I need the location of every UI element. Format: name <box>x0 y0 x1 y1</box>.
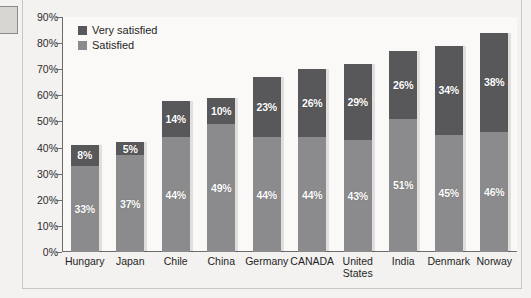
y-axis-tick-label: 60% <box>37 89 58 101</box>
legend-swatch-icon <box>78 41 87 50</box>
bar-group: 14%44% <box>162 101 190 252</box>
stacked-bar-chart: 0%10%20%30%40%50%60%70%80%90% 8%33%5%37%… <box>0 0 531 298</box>
bar-segment-value-label: 44% <box>257 189 277 201</box>
chart-legend: Very satisfiedSatisfied <box>78 24 157 51</box>
y-axis-tick-label: 70% <box>37 63 58 75</box>
bar-segment-value-label: 10% <box>211 105 231 117</box>
y-axis-tick-mark <box>56 95 62 96</box>
x-axis-tick-label: Denmark <box>426 255 472 267</box>
y-axis-tick-mark <box>56 69 62 70</box>
y-axis-tick-label: 90% <box>37 11 58 23</box>
y-axis-tick-mark <box>56 226 62 227</box>
bar-group: 23%44% <box>253 77 281 252</box>
bar-segment-satisfied: 44% <box>162 137 190 252</box>
y-axis-tick-label: 20% <box>37 194 58 206</box>
scanned-page: 0%10%20%30%40%50%60%70%80%90% 8%33%5%37%… <box>0 0 531 298</box>
bar-segment-very-satisfied: 14% <box>162 101 190 138</box>
bar-segment-very-satisfied: 23% <box>253 77 281 137</box>
bar-segment-satisfied: 37% <box>116 155 144 252</box>
y-axis-tick-mark <box>56 148 62 149</box>
bar-segment-satisfied: 49% <box>207 124 235 252</box>
legend-item-label: Very satisfied <box>92 24 157 36</box>
bar-group: 10%49% <box>207 98 235 252</box>
x-axis-tick-label: China <box>199 255 245 267</box>
bar-segment-value-label: 43% <box>348 190 368 202</box>
x-axis-tick-label: India <box>381 255 427 267</box>
bar-segment-value-label: 44% <box>166 189 186 201</box>
y-axis-tick-mark <box>56 200 62 201</box>
bar-segment-value-label: 14% <box>166 113 186 125</box>
y-axis-tick-mark <box>56 17 62 18</box>
bar-shadow <box>508 33 511 252</box>
x-axis-tick-label: Germany <box>244 255 290 267</box>
y-axis-tick-mark <box>56 43 62 44</box>
bar-segment-value-label: 51% <box>393 179 413 191</box>
y-axis-tick-mark <box>56 252 62 253</box>
bar-segment-value-label: 23% <box>257 101 277 113</box>
bar-segment-very-satisfied: 29% <box>344 64 372 140</box>
x-axis-tick-label: CANADA <box>290 255 336 267</box>
y-axis-tick-label: 40% <box>37 142 58 154</box>
bar-segment-value-label: 45% <box>439 187 459 199</box>
bar-segment-value-label: 49% <box>211 182 231 194</box>
y-axis-ticks <box>56 17 63 252</box>
bar-segment-satisfied: 45% <box>435 135 463 253</box>
page-bleed-through <box>91 95 99 119</box>
bar-segment-satisfied: 51% <box>389 119 417 252</box>
x-axis-tick-label: Hungary <box>62 255 108 267</box>
bar-group: 5%37% <box>116 142 144 252</box>
y-axis-tick-label: 50% <box>37 115 58 127</box>
bar-shadow <box>372 64 375 252</box>
legend-item: Satisfied <box>78 39 157 51</box>
x-axis-tick-label: Japan <box>108 255 154 267</box>
bar-shadow <box>144 142 147 252</box>
bar-segment-value-label: 5% <box>123 143 138 155</box>
legend-item: Very satisfied <box>78 24 157 36</box>
bar-group: 38%46% <box>480 33 508 252</box>
bar-shadow <box>417 51 420 252</box>
bar-group: 8%33% <box>71 145 99 252</box>
bar-shadow <box>99 145 102 252</box>
bar-segment-value-label: 26% <box>302 97 322 109</box>
x-axis-labels: HungaryJapanChileChinaGermanyCANADAUnite… <box>62 255 517 295</box>
bar-segment-satisfied: 46% <box>480 132 508 252</box>
bar-segment-value-label: 37% <box>120 198 140 210</box>
bar-segment-value-label: 8% <box>77 149 92 161</box>
bar-segment-value-label: 34% <box>439 84 459 96</box>
bar-group: 26%44% <box>298 69 326 252</box>
bar-segment-very-satisfied: 38% <box>480 33 508 132</box>
legend-item-label: Satisfied <box>92 39 134 51</box>
y-axis-tick-label: 10% <box>37 220 58 232</box>
bar-segment-value-label: 26% <box>393 79 413 91</box>
bar-shadow <box>326 69 329 252</box>
x-axis-tick-label: Chile <box>153 255 199 267</box>
bar-segment-value-label: 29% <box>348 96 368 108</box>
bar-segment-value-label: 38% <box>484 76 504 88</box>
y-axis-tick-label: 80% <box>37 37 58 49</box>
x-axis-tick-label: Norway <box>472 255 518 267</box>
bar-segment-very-satisfied: 34% <box>435 46 463 135</box>
y-axis-tick-label: 30% <box>37 168 58 180</box>
x-axis-tick-label: United States <box>335 255 381 279</box>
bar-segment-very-satisfied: 10% <box>207 98 235 124</box>
legend-swatch-icon <box>78 26 87 35</box>
bar-segment-satisfied: 44% <box>298 137 326 252</box>
bar-segment-very-satisfied: 26% <box>298 69 326 137</box>
y-axis-labels: 0%10%20%30%40%50%60%70%80%90% <box>22 17 58 252</box>
bar-segment-value-label: 46% <box>484 186 504 198</box>
bar-segment-satisfied: 33% <box>71 166 99 252</box>
bar-segment-satisfied: 43% <box>344 140 372 252</box>
bar-segment-very-satisfied: 5% <box>116 142 144 155</box>
bar-group: 34%45% <box>435 46 463 252</box>
bar-segment-very-satisfied: 8% <box>71 145 99 166</box>
y-axis-tick-mark <box>56 121 62 122</box>
bar-segment-very-satisfied: 26% <box>389 51 417 119</box>
bar-segment-satisfied: 44% <box>253 137 281 252</box>
bar-shadow <box>190 101 193 252</box>
bar-shadow <box>281 77 284 252</box>
bar-segment-value-label: 33% <box>75 203 95 215</box>
bar-shadow <box>463 46 466 252</box>
bar-shadow <box>235 98 238 252</box>
bar-group: 29%43% <box>344 64 372 252</box>
bar-group: 26%51% <box>389 51 417 252</box>
